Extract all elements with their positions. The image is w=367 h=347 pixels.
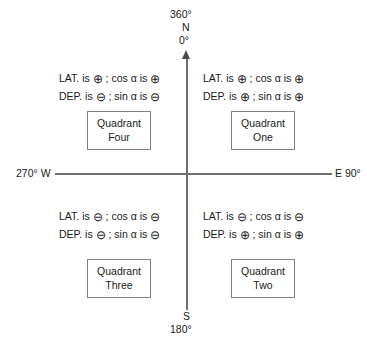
lat-sign: ⊖ bbox=[237, 212, 247, 224]
sin-sign: ⊖ bbox=[150, 230, 160, 242]
cos-text: ; cos α is bbox=[106, 72, 148, 84]
sin-text: ; sin α is bbox=[109, 228, 148, 240]
quadrant-four-box-line1: Quadrant bbox=[88, 116, 150, 130]
cos-sign: ⊕ bbox=[150, 74, 160, 86]
quadrant-two-dep-row: DEP. is ⊕ ; sin α is ⊕ bbox=[203, 225, 304, 243]
quadrant-three-dep-row: DEP. is ⊖ ; sin α is ⊖ bbox=[59, 225, 160, 243]
label-east-90: E 90° bbox=[335, 167, 361, 180]
quadrant-two-box-line1: Quadrant bbox=[232, 264, 294, 278]
dep-sign: ⊖ bbox=[96, 230, 106, 242]
sin-text: ; sin α is bbox=[253, 90, 292, 102]
quadrant-two-signs: LAT. is ⊖ ; cos α is ⊖ DEP. is ⊕ ; sin α… bbox=[203, 207, 304, 243]
label-north-0: 0° bbox=[179, 34, 189, 47]
label-south-180: 180° bbox=[170, 323, 192, 336]
cos-sign: ⊕ bbox=[294, 74, 304, 86]
quadrant-two-box: Quadrant Two bbox=[231, 259, 295, 298]
quadrant-four-dep-row: DEP. is ⊖ ; sin α is ⊖ bbox=[59, 87, 160, 105]
quadrant-sign-diagram: 360° N 0° S 180° 270° W E 90° LAT. is ⊕ … bbox=[0, 0, 367, 347]
quadrant-one-signs: LAT. is ⊕ ; cos α is ⊕ DEP. is ⊕ ; sin α… bbox=[203, 69, 304, 105]
dep-sign: ⊖ bbox=[96, 92, 106, 104]
cos-text: ; cos α is bbox=[106, 210, 148, 222]
quadrant-four-lat-row: LAT. is ⊕ ; cos α is ⊕ bbox=[59, 69, 160, 87]
label-west-270: 270° W bbox=[16, 167, 51, 180]
label-north-letter: N bbox=[182, 21, 190, 34]
lat-sign: ⊖ bbox=[93, 212, 103, 224]
north-arrow-icon bbox=[182, 50, 190, 59]
quadrant-three-signs: LAT. is ⊖ ; cos α is ⊖ DEP. is ⊖ ; sin α… bbox=[59, 207, 160, 243]
quadrant-two-lat-row: LAT. is ⊖ ; cos α is ⊖ bbox=[203, 207, 304, 225]
quadrant-three-box-line2: Three bbox=[88, 278, 150, 292]
dep-prefix: DEP. is bbox=[59, 90, 93, 102]
lat-prefix: LAT. is bbox=[203, 210, 234, 222]
quadrant-three-box-line1: Quadrant bbox=[88, 264, 150, 278]
dep-prefix: DEP. is bbox=[203, 228, 237, 240]
lat-sign: ⊕ bbox=[93, 74, 103, 86]
sin-sign: ⊕ bbox=[294, 230, 304, 242]
label-south-letter: S bbox=[183, 310, 190, 323]
quadrant-one-box: Quadrant One bbox=[231, 111, 295, 150]
sin-text: ; sin α is bbox=[253, 228, 292, 240]
sin-sign: ⊕ bbox=[294, 92, 304, 104]
dep-sign: ⊕ bbox=[240, 230, 250, 242]
lat-sign: ⊕ bbox=[237, 74, 247, 86]
label-north-360: 360° bbox=[170, 8, 192, 21]
quadrant-one-box-line1: Quadrant bbox=[232, 116, 294, 130]
dep-sign: ⊕ bbox=[240, 92, 250, 104]
cos-sign: ⊖ bbox=[150, 212, 160, 224]
cos-text: ; cos α is bbox=[250, 72, 292, 84]
quadrant-four-box: Quadrant Four bbox=[87, 111, 151, 150]
dep-prefix: DEP. is bbox=[203, 90, 237, 102]
quadrant-three-lat-row: LAT. is ⊖ ; cos α is ⊖ bbox=[59, 207, 160, 225]
sin-sign: ⊖ bbox=[150, 92, 160, 104]
sin-text: ; sin α is bbox=[109, 90, 148, 102]
quadrant-one-lat-row: LAT. is ⊕ ; cos α is ⊕ bbox=[203, 69, 304, 87]
horizontal-axis bbox=[55, 173, 332, 175]
quadrant-two-box-line2: Two bbox=[232, 278, 294, 292]
quadrant-one-dep-row: DEP. is ⊕ ; sin α is ⊕ bbox=[203, 87, 304, 105]
quadrant-one-box-line2: One bbox=[232, 130, 294, 144]
lat-prefix: LAT. is bbox=[59, 72, 90, 84]
quadrant-four-box-line2: Four bbox=[88, 130, 150, 144]
cos-text: ; cos α is bbox=[250, 210, 292, 222]
vertical-axis bbox=[186, 56, 188, 310]
lat-prefix: LAT. is bbox=[59, 210, 90, 222]
cos-sign: ⊖ bbox=[294, 212, 304, 224]
quadrant-three-box: Quadrant Three bbox=[87, 259, 151, 298]
lat-prefix: LAT. is bbox=[203, 72, 234, 84]
quadrant-four-signs: LAT. is ⊕ ; cos α is ⊕ DEP. is ⊖ ; sin α… bbox=[59, 69, 160, 105]
dep-prefix: DEP. is bbox=[59, 228, 93, 240]
